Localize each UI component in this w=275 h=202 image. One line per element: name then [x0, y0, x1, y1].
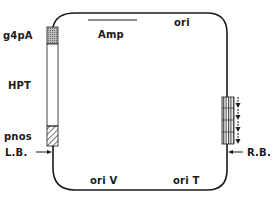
label-g4pa: g4pA	[3, 30, 33, 41]
pnos-box	[47, 126, 58, 146]
rb-direction-arrows	[236, 97, 241, 144]
label-hpt: HPT	[8, 80, 31, 91]
label-ori-v: ori V	[90, 175, 117, 186]
rb-arrowhead	[228, 150, 233, 154]
label-ori: ori	[174, 17, 190, 28]
hpt-box	[47, 44, 58, 126]
plasmid-diagram	[0, 0, 275, 202]
label-rb: R.B.	[247, 147, 271, 158]
backbone-line	[53, 13, 227, 97]
label-lb: L.B.	[5, 147, 27, 158]
rb-repeat-box	[222, 97, 234, 144]
backbone-line-bottom	[53, 144, 227, 190]
label-amp: Amp	[98, 29, 124, 40]
g4pa-box	[47, 27, 58, 44]
label-ori-t: ori T	[173, 175, 200, 186]
label-pnos: pnos	[4, 131, 32, 142]
lb-arrowhead	[47, 150, 52, 154]
